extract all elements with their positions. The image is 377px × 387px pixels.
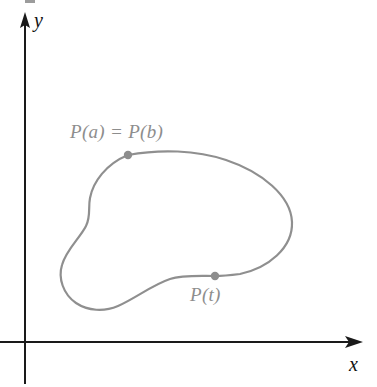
- curve-group: [61, 151, 292, 310]
- diagram-svg: [0, 0, 377, 387]
- point-marker-pa-pb: [124, 151, 132, 159]
- point-label-pa-equals-pb: P(a) = P(b): [70, 122, 163, 141]
- closed-curve-path: [61, 151, 292, 310]
- y-axis-label: y: [34, 10, 43, 30]
- figure-canvas: y x P(a) = P(b) P(t): [0, 0, 377, 387]
- cropped-glyph-artifact: [25, 0, 35, 3]
- axes-group: [0, 12, 363, 384]
- point-marker-pt: [211, 272, 219, 280]
- x-axis-label: x: [349, 354, 358, 374]
- point-label-pt: P(t): [190, 285, 221, 304]
